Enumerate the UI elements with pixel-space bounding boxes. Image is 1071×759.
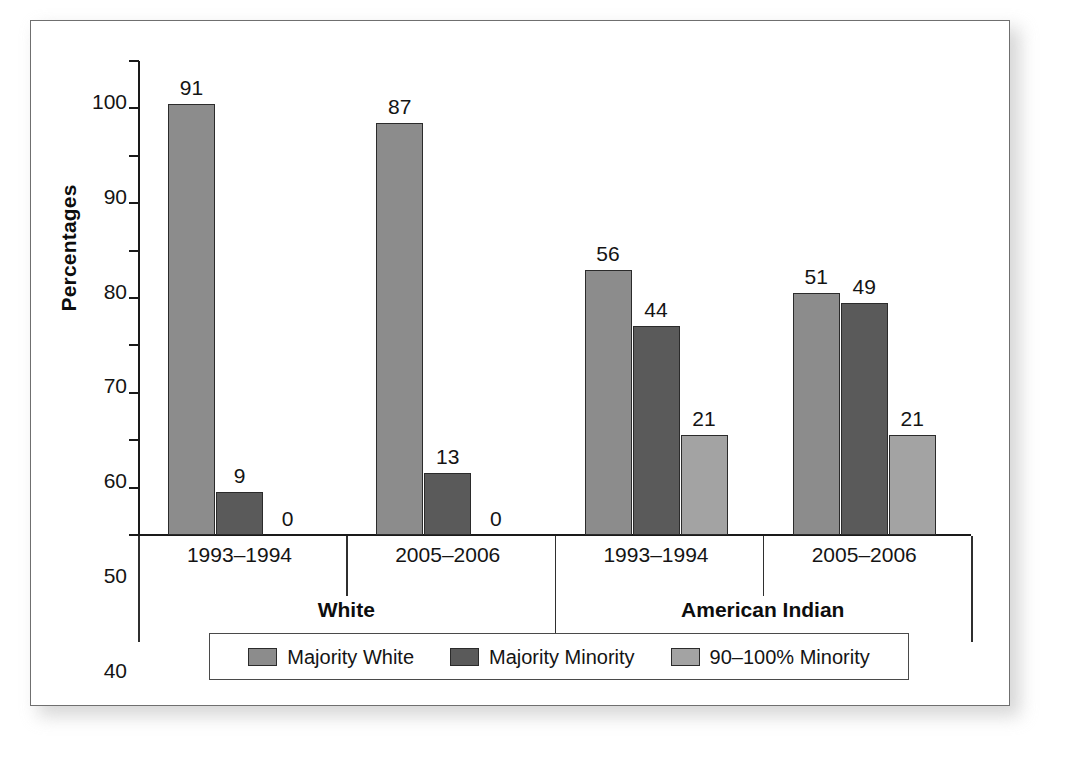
bar-chart-plot-area: Percentages 1009080706050403020100 91908… [31,21,1009,705]
x-axis-year-divider [763,536,765,596]
x-axis-year-divider [346,536,348,596]
bar [793,293,840,535]
bar-value-label: 0 [252,508,323,529]
bar-value-label: 87 [364,96,435,117]
x-axis-group-label: American Indian [603,599,923,620]
chart-legend: Majority WhiteMajority Minority90–100% M… [209,633,909,680]
bar-value-label: 44 [621,299,692,320]
x-axis-year-label: 1993–1994 [556,544,756,565]
legend-label: Majority White [287,647,414,667]
y-axis-tick-label: 50 [75,565,127,586]
x-axis-group-label: White [186,599,506,620]
legend-swatch-icon [450,648,479,666]
legend-item: 90–100% Minority [671,647,870,667]
x-axis-year-label: 2005–2006 [764,544,964,565]
legend-item: Majority Minority [450,647,635,667]
bar [376,123,423,535]
bar-value-label: 21 [669,408,740,429]
y-axis-tick-label: 40 [75,659,127,680]
bar-value-label: 13 [412,446,483,467]
legend-swatch-icon [671,648,700,666]
y-axis-tick-label: 80 [75,280,127,301]
bar [681,435,728,535]
bar [633,326,680,535]
y-axis-tick-label: 30 [75,754,127,759]
bar-value-label: 9 [204,465,275,486]
bars-layer: 919087130564421514921 [138,61,971,535]
y-axis-tick-label: 70 [75,375,127,396]
bar-value-label: 0 [460,508,531,529]
y-axis-tick-label: 90 [75,185,127,206]
x-axis-group-divider [138,536,140,642]
legend-label: Majority Minority [489,647,635,667]
x-axis-group-divider [555,536,557,642]
bar-value-label: 91 [156,77,227,98]
bar [889,435,936,535]
legend-label: 90–100% Minority [710,647,870,667]
chart-page: Percentages 1009080706050403020100 91908… [0,0,1071,759]
y-axis-tick-label: 100 [75,91,127,112]
bar-value-label: 56 [573,243,644,264]
x-axis-year-label: 1993–1994 [140,544,340,565]
legend-swatch-icon [248,648,277,666]
legend-item: Majority White [248,647,414,667]
x-axis-year-label: 2005–2006 [348,544,548,565]
x-axis-group-divider [971,536,973,642]
y-axis-tick-label: 60 [75,470,127,491]
bar-value-label: 49 [829,276,900,297]
bar-value-label: 21 [877,408,948,429]
y-axis-title: Percentages [57,118,81,378]
chart-card: Percentages 1009080706050403020100 91908… [30,20,1010,706]
